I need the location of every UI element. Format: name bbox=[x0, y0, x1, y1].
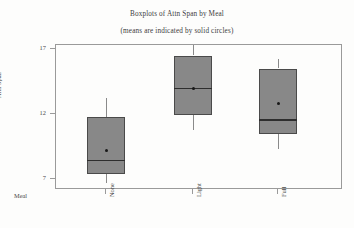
x-axis-label: Meal bbox=[14, 192, 27, 199]
y-tick-label: 17 bbox=[40, 44, 46, 51]
chart-title: Boxplots of Attn Span by Meal bbox=[0, 10, 354, 18]
median-line bbox=[259, 119, 297, 120]
x-tick-mark bbox=[105, 189, 106, 194]
y-tick-label: 7 bbox=[43, 174, 46, 181]
x-tick-label-none: None bbox=[108, 183, 115, 197]
x-tick-label-full: Full bbox=[280, 187, 287, 197]
y-axis-label: Attn Span bbox=[0, 72, 2, 98]
whisker-lower bbox=[278, 134, 279, 150]
x-tick-label-light: Light bbox=[195, 183, 202, 197]
mean-dot bbox=[277, 102, 280, 105]
x-tick-mark bbox=[192, 189, 193, 194]
boxplot-figure: Boxplots of Attn Span by Meal (means are… bbox=[0, 0, 354, 228]
y-tick-label: 12 bbox=[40, 109, 46, 116]
boxplot-full bbox=[56, 45, 343, 190]
box-iqr bbox=[259, 69, 297, 134]
y-tick: 12 bbox=[0, 113, 55, 114]
whisker-upper bbox=[278, 59, 279, 68]
plot-area bbox=[55, 44, 342, 189]
chart-subtitle: (means are indicated by solid circles) bbox=[0, 27, 354, 35]
y-tick: 7 bbox=[0, 178, 55, 179]
x-tick-mark bbox=[277, 189, 278, 194]
y-tick: 17 bbox=[0, 48, 55, 49]
